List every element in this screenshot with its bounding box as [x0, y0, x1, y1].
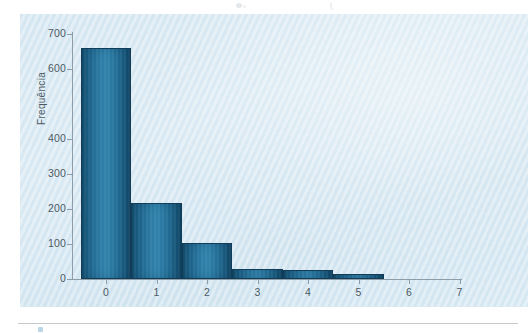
- y-axis-tick-label: 0: [30, 273, 66, 284]
- page-margin-mark: [38, 327, 43, 332]
- y-axis-tick-label: 200: [30, 203, 66, 214]
- y-axis-tick-label-wrap: 700: [26, 34, 66, 35]
- y-axis-tick: [67, 34, 73, 35]
- y-axis-tick-label-wrap: 400: [26, 139, 66, 140]
- x-axis-tick: [207, 279, 208, 284]
- x-axis-tick: [460, 279, 461, 284]
- x-axis-line: [72, 279, 462, 280]
- y-axis-tick-label-wrap: 300: [26, 174, 66, 175]
- x-axis-tick-label: 1: [147, 287, 167, 298]
- x-axis-tick: [359, 279, 360, 284]
- x-axis-tick: [157, 279, 158, 284]
- y-axis-tick: [67, 174, 73, 175]
- y-axis-tick-label-wrap: 600: [26, 69, 66, 70]
- x-axis-tick: [409, 279, 410, 284]
- x-axis-tick-label: 2: [197, 287, 217, 298]
- histogram-bar: [283, 270, 334, 279]
- y-axis-tick: [67, 139, 73, 140]
- y-axis-tick-label: 600: [30, 63, 66, 74]
- y-axis-title: Frequência: [36, 72, 47, 125]
- histogram-bar: [333, 274, 384, 279]
- y-axis-tick-label: 700: [30, 28, 66, 39]
- y-axis-tick-label-wrap: 100: [26, 244, 66, 245]
- page-divider-rule: [18, 323, 518, 324]
- x-axis-tick-label: 6: [399, 287, 419, 298]
- histogram-plot: Frequência 0100200300400600700 01234567: [0, 0, 528, 333]
- y-axis-tick: [67, 69, 73, 70]
- x-axis-tick-label: 7: [450, 287, 470, 298]
- histogram-bar: [131, 203, 182, 279]
- histogram-bar: [81, 48, 132, 279]
- y-axis-tick: [67, 244, 73, 245]
- y-axis-tick-label: 400: [30, 133, 66, 144]
- y-axis-tick-label-wrap: 0: [26, 279, 66, 280]
- x-axis-tick: [106, 279, 107, 284]
- y-axis-tick: [67, 279, 73, 280]
- x-axis-tick: [258, 279, 259, 284]
- y-axis-tick-label: 300: [30, 168, 66, 179]
- y-axis-tick-label-wrap: 200: [26, 209, 66, 210]
- histogram-bar: [232, 269, 283, 280]
- x-axis-tick-label: 0: [96, 287, 116, 298]
- histogram-bar: [182, 243, 233, 279]
- y-axis-tick: [67, 209, 73, 210]
- x-axis-tick-label: 4: [298, 287, 318, 298]
- scanned-page: Frequência 0100200300400600700 01234567: [0, 0, 528, 333]
- x-axis-tick-label: 3: [248, 287, 268, 298]
- x-axis-tick-label: 5: [349, 287, 369, 298]
- x-axis-tick: [308, 279, 309, 284]
- y-axis-tick-label: 100: [30, 238, 66, 249]
